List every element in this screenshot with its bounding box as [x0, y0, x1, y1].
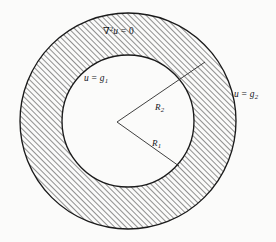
label-inner-boundary-condition: u = g1 — [84, 74, 108, 85]
r2-subscript: 2 — [161, 106, 164, 113]
outer-bc-equals: = — [242, 89, 248, 99]
inner-bc-subscript: 1 — [105, 77, 108, 84]
laplace-variable: u — [113, 26, 118, 36]
label-laplace-equation: ∇2u = 0 — [103, 26, 134, 37]
outer-bc-subscript: 2 — [255, 93, 258, 100]
outer-bc-variable: u — [234, 89, 239, 99]
annulus-hatched-region — [0, 0, 276, 242]
label-radius-inner: R1 — [152, 139, 161, 150]
r1-subscript: 1 — [158, 142, 161, 149]
laplace-equals: = — [121, 26, 127, 36]
label-radius-outer: R2 — [155, 103, 164, 114]
nabla-symbol: ∇ — [103, 25, 110, 36]
annulus-vector-graphic — [0, 0, 276, 242]
laplace-value: 0 — [129, 26, 134, 36]
label-outer-boundary-condition: u = g2 — [234, 90, 258, 101]
figure-annulus-diagram: ∇2u = 0 u = g1 u = g2 R2 R1 — [0, 0, 276, 242]
inner-bc-equals: = — [92, 73, 98, 83]
inner-bc-variable: u — [84, 73, 89, 83]
